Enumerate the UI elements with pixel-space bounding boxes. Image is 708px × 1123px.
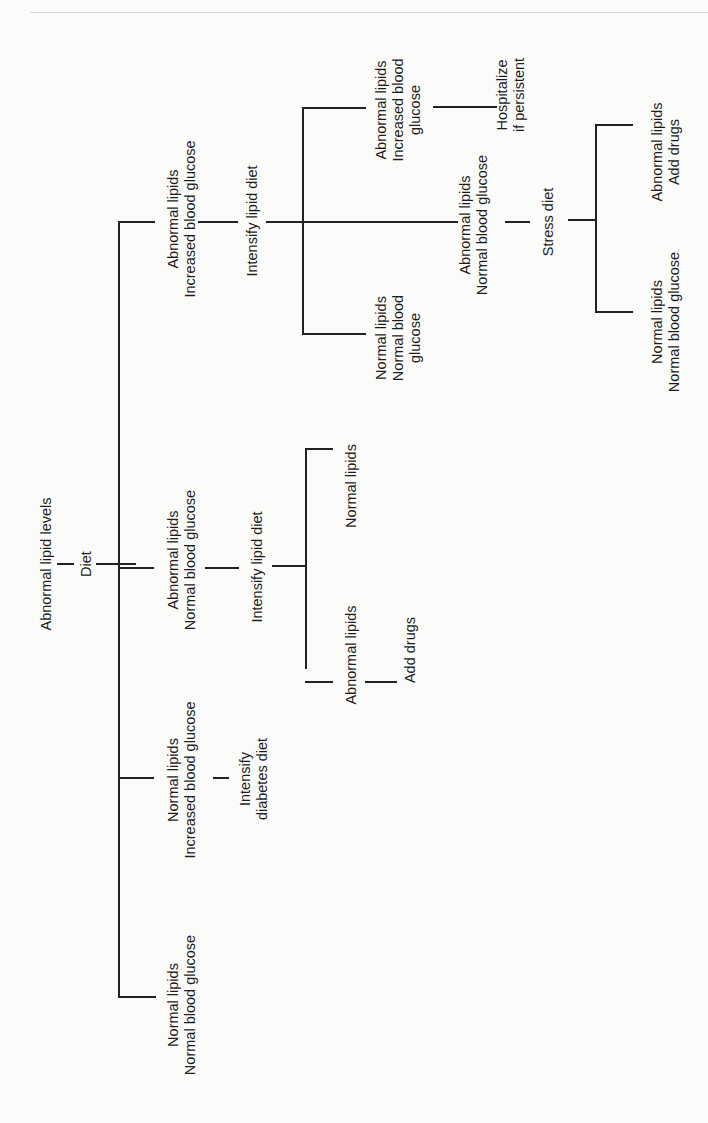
connector bbox=[118, 221, 155, 223]
connector bbox=[595, 124, 633, 126]
connector bbox=[118, 996, 156, 998]
connector bbox=[595, 311, 633, 313]
connector bbox=[365, 681, 397, 683]
connector bbox=[568, 219, 596, 221]
branch2-fork bbox=[305, 448, 307, 669]
connector bbox=[205, 567, 239, 569]
connector bbox=[118, 567, 154, 569]
stress-fork bbox=[595, 124, 597, 312]
connector bbox=[266, 221, 458, 223]
connector bbox=[57, 563, 74, 565]
diet-label: Diet bbox=[78, 551, 95, 577]
connector bbox=[198, 221, 238, 223]
connector bbox=[302, 107, 366, 109]
connector bbox=[433, 106, 497, 108]
connector bbox=[96, 563, 136, 565]
connector bbox=[272, 565, 306, 567]
connector bbox=[302, 333, 366, 335]
root-label: Abnormal lipid levels bbox=[38, 498, 55, 631]
branch1-fork bbox=[302, 107, 304, 334]
connector bbox=[305, 448, 333, 450]
page-edge bbox=[30, 12, 708, 13]
connector bbox=[118, 777, 154, 779]
connector bbox=[213, 777, 229, 779]
connector bbox=[505, 221, 530, 223]
main-trunk bbox=[118, 221, 120, 998]
connector bbox=[305, 681, 333, 683]
